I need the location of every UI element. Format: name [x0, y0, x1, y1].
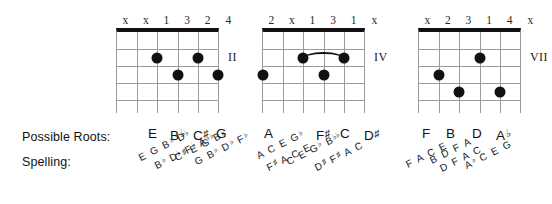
accidental: ♭: [183, 128, 191, 138]
finger-dot: [213, 69, 224, 80]
fretboard-grid: [418, 28, 521, 113]
string-line: [137, 32, 138, 113]
fret-position-marker: II: [228, 50, 237, 65]
finger-number: 3: [458, 15, 479, 27]
string-line: [344, 32, 345, 113]
finger-number: 4: [218, 15, 239, 27]
finger-dot: [494, 86, 505, 97]
row-labels: Possible Roots: Spelling:: [22, 130, 147, 169]
muted-string-marker: x: [282, 15, 303, 27]
fingering-row: 2x131x: [261, 10, 385, 26]
finger-dot: [454, 86, 465, 97]
chord-diagram-3: x2314xVII: [418, 10, 541, 113]
muted-string-marker: x: [115, 15, 136, 27]
finger-number: 3: [177, 15, 198, 27]
finger-number: 3: [323, 15, 344, 27]
accidental: ♭: [297, 128, 305, 138]
finger-number: 1: [156, 15, 177, 27]
finger-number: 2: [438, 15, 459, 27]
muted-string-marker: x: [136, 15, 157, 27]
fret-line: [419, 66, 520, 67]
fret-line: [263, 83, 364, 84]
fingering-row: x2314x: [417, 10, 541, 26]
accidental: ♯: [271, 158, 279, 168]
accidental: ♯: [374, 127, 379, 139]
fret-line: [419, 83, 520, 84]
accidental: ♭: [316, 139, 324, 149]
possible-roots-label: Possible Roots:: [22, 130, 147, 144]
spelling-label: Spelling:: [22, 155, 147, 169]
string-line: [459, 32, 460, 113]
fret-line: [117, 100, 218, 101]
root-note: A: [264, 126, 273, 141]
fret-line: [263, 100, 364, 101]
string-line: [500, 32, 501, 113]
accidental: ♭: [242, 130, 250, 140]
finger-dot: [434, 69, 445, 80]
fret-line: [419, 49, 520, 50]
accidental: ♭: [212, 145, 220, 155]
finger-number: 2: [197, 15, 218, 27]
finger-number: 1: [479, 15, 500, 27]
root-note: D♯: [364, 126, 380, 143]
fret-line: [117, 49, 218, 50]
string-line: [198, 32, 199, 113]
fret-position-marker: VII: [530, 50, 548, 65]
finger-number: 4: [499, 15, 520, 27]
finger-number: 1: [343, 15, 364, 27]
accidental: ♭: [227, 137, 235, 147]
fret-line: [117, 83, 218, 84]
fret-line: [117, 66, 218, 67]
finger-dot: [172, 69, 183, 80]
accidental: ♯: [320, 157, 328, 167]
finger-dot: [318, 69, 329, 80]
accidental: ♭: [470, 155, 478, 165]
root-note: E: [148, 126, 157, 141]
accidental: ♭: [167, 135, 175, 145]
fret-line: [263, 66, 364, 67]
accidental: ♯: [335, 150, 343, 160]
fretboard-grid: [262, 28, 365, 113]
muted-string-marker: x: [520, 15, 541, 27]
fret-position-marker: IV: [374, 50, 387, 65]
chord-diagram-1: xx1324II: [116, 10, 239, 113]
finger-dot: [338, 52, 349, 63]
root-note: F: [422, 126, 430, 141]
string-line: [283, 32, 284, 113]
string-line: [303, 32, 304, 113]
string-line: [157, 32, 158, 113]
accidental: ♭: [160, 155, 168, 165]
fretboard-grid: [116, 28, 219, 113]
muted-string-marker: x: [364, 15, 385, 27]
finger-dot: [192, 52, 203, 63]
string-line: [480, 32, 481, 113]
finger-number: 1: [302, 15, 323, 27]
fret-line: [419, 100, 520, 101]
finger-dot: [258, 69, 269, 80]
finger-number: 2: [261, 15, 282, 27]
muted-string-marker: x: [417, 15, 438, 27]
fret-line: [263, 49, 364, 50]
accidental: ♯: [180, 147, 188, 157]
root-note: B: [446, 126, 455, 141]
finger-dot: [474, 52, 485, 63]
fingering-row: xx1324: [115, 10, 239, 26]
chord-diagram-2: 2x131xIV: [262, 10, 385, 113]
finger-dot: [298, 52, 309, 63]
finger-dot: [152, 52, 163, 63]
root-note: D: [472, 126, 482, 141]
